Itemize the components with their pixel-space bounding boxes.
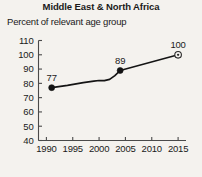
start-point-marker xyxy=(49,85,55,91)
latest-point-marker xyxy=(117,68,123,74)
y-tick-label: 100 xyxy=(18,49,33,60)
y-tick-label: 110 xyxy=(19,35,34,46)
x-axis-tick-labels: 199019952000200520102015 xyxy=(36,143,188,154)
y-tick-label: 40 xyxy=(23,135,33,146)
data-line-projection xyxy=(120,55,178,71)
y-tick-label: 90 xyxy=(23,63,33,74)
target-point-marker-center xyxy=(177,54,179,56)
x-tick-label: 2000 xyxy=(89,143,109,154)
x-tick-label: 1995 xyxy=(63,143,83,154)
y-tick-label: 70 xyxy=(23,92,33,103)
y-axis-tick-labels: 405060708090100110 xyxy=(18,35,33,146)
x-tick-label: 2015 xyxy=(168,143,188,154)
y-tick-label: 60 xyxy=(23,106,33,117)
chart-plot-area: 405060708090100110 199019952000200520102… xyxy=(0,0,202,177)
x-tick-label: 1990 xyxy=(36,143,56,154)
x-tick-label: 2010 xyxy=(142,143,162,154)
y-tick-label: 50 xyxy=(23,121,33,132)
value-label-100: 100 xyxy=(170,39,185,50)
y-tick-label: 80 xyxy=(23,78,33,89)
data-value-labels: 7789100 xyxy=(47,39,186,83)
value-label-77: 77 xyxy=(47,72,57,83)
value-label-89: 89 xyxy=(115,55,125,66)
x-tick-label: 2005 xyxy=(115,143,135,154)
chart-container: Middle East & North Africa Percent of re… xyxy=(0,0,202,177)
data-line-observed xyxy=(52,71,120,88)
